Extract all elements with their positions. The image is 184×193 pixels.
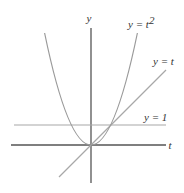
parabola-label: y = t2 bbox=[127, 14, 155, 30]
y-axis-label: y bbox=[86, 12, 92, 24]
graph-figure: y t y = t2 y = t y = 1 bbox=[0, 0, 184, 193]
line-y-equals-t bbox=[59, 70, 166, 177]
parabola-label-exponent: 2 bbox=[149, 14, 155, 26]
line-y-equals-1-label: y = 1 bbox=[143, 111, 167, 123]
line-y-equals-t-label: y = t bbox=[152, 55, 175, 67]
parabola-label-text: y = t bbox=[127, 18, 150, 30]
t-axis-label: t bbox=[169, 139, 173, 151]
